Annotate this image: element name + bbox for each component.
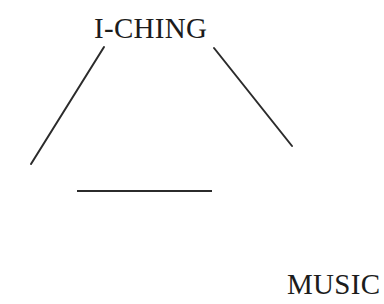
diagram-line-layer <box>0 0 384 304</box>
left-diagonal-line <box>31 47 104 164</box>
label-music: MUSIC <box>287 270 380 299</box>
label-iching: I-CHING <box>94 14 207 43</box>
scanned-figure-page: I-CHING MUSIC <box>0 0 384 304</box>
right-diagonal-line <box>214 48 292 146</box>
